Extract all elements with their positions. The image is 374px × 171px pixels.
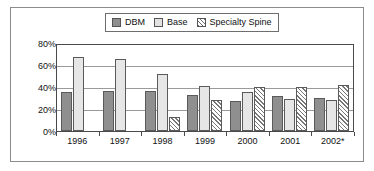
bar-dbm-2001 [272, 96, 283, 131]
legend-label-specialty-spine: Specialty Spine [210, 18, 272, 27]
bar-group-1997 [99, 45, 141, 131]
y-axis-label-60: 60% [26, 62, 56, 71]
x-axis-label-1999: 1999 [184, 137, 227, 146]
bar-base-1998 [157, 74, 168, 131]
bar-specialty-spine-2000 [254, 87, 265, 131]
bar-dbm-1996 [61, 92, 72, 131]
bar-specialty-spine-1999 [211, 100, 222, 131]
x-tick-mark [269, 132, 270, 136]
x-axis-label-1996: 1996 [56, 137, 99, 146]
bar-group-2001 [268, 45, 310, 131]
y-axis-label-0: 0% [26, 128, 56, 137]
bar-group-1999 [184, 45, 226, 131]
plot-area: 80% 60% 40% 20% 0% [20, 44, 354, 154]
bar-dbm-1999 [187, 95, 198, 131]
bar-base-1999 [199, 86, 210, 131]
bar-base-2000 [242, 92, 253, 131]
bar-groups [57, 45, 353, 131]
legend-swatch-specialty-spine-icon [197, 18, 206, 27]
legend-swatch-base-icon [154, 18, 163, 27]
x-axis-labels: 1996 1997 1998 1999 2000 2001 2002* [56, 137, 354, 146]
bar-group-1996 [57, 45, 99, 131]
plot-frame [56, 44, 354, 132]
chart-legend: DBM Base Specialty Spine [105, 13, 279, 32]
bar-specialty-spine-1998 [169, 117, 180, 131]
chart-figure: DBM Base Specialty Spine 80% 60% 40% 20%… [0, 0, 374, 171]
x-axis-label-1998: 1998 [141, 137, 184, 146]
y-axis-label-20: 20% [26, 106, 56, 115]
bar-dbm-2002 [314, 98, 325, 131]
x-axis-label-1997: 1997 [99, 137, 142, 146]
bar-dbm-1997 [103, 91, 114, 131]
x-tick-mark [99, 132, 100, 136]
bar-group-2002 [311, 45, 353, 131]
y-axis-label-40: 40% [26, 84, 56, 93]
legend-item-specialty-spine: Specialty Spine [197, 18, 272, 27]
bar-dbm-1998 [145, 91, 156, 131]
bar-group-1998 [142, 45, 184, 131]
x-axis-label-2000: 2000 [226, 137, 269, 146]
x-tick-mark [141, 132, 142, 136]
x-tick-mark [354, 132, 355, 136]
bar-specialty-spine-2002 [338, 85, 349, 131]
legend-item-dbm: DBM [112, 18, 145, 27]
x-tick-mark [56, 132, 57, 136]
x-tick-mark [184, 132, 185, 136]
bar-base-2002 [326, 100, 337, 131]
legend-label-dbm: DBM [125, 18, 145, 27]
legend-swatch-dbm-icon [112, 18, 121, 27]
x-tick-mark [226, 132, 227, 136]
bar-base-1996 [73, 57, 84, 131]
bar-specialty-spine-2001 [296, 87, 307, 131]
legend-label-base: Base [167, 18, 188, 27]
bar-base-2001 [284, 99, 295, 131]
legend-item-base: Base [154, 18, 188, 27]
bar-dbm-2000 [230, 101, 241, 131]
bar-group-2000 [226, 45, 268, 131]
x-axis-label-2001: 2001 [269, 137, 312, 146]
bar-base-1997 [115, 59, 126, 131]
x-tick-mark [311, 132, 312, 136]
x-axis-label-2002: 2002* [311, 137, 354, 146]
y-axis-label-80: 80% [26, 40, 56, 49]
